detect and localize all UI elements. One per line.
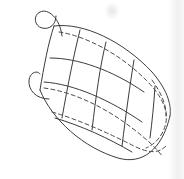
hidden-contour-right bbox=[146, 80, 166, 148]
grid-latitudinal-group bbox=[44, 58, 144, 152]
longitude-line-4 bbox=[122, 60, 134, 146]
lower-hook-icon bbox=[29, 72, 49, 99]
hidden-contour-mid bbox=[44, 88, 162, 156]
longitude-line-3 bbox=[92, 42, 106, 130]
latitude-line-3 bbox=[55, 118, 132, 152]
longitude-line-5 bbox=[150, 86, 155, 138]
upper-hook-icon bbox=[35, 11, 62, 36]
body-outline-upper-edge bbox=[54, 25, 170, 116]
hook-group bbox=[29, 11, 62, 99]
grid-longitudinal-group bbox=[40, 26, 155, 146]
sketch-canvas bbox=[0, 0, 184, 179]
hidden-contour-lower bbox=[52, 112, 166, 152]
sketch-drawing bbox=[0, 0, 184, 179]
longitude-line-2 bbox=[62, 30, 80, 118]
